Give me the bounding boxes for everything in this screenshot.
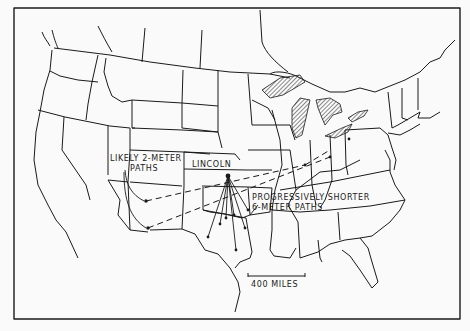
scale-bar — [248, 273, 305, 277]
six-meter-label-line1: PROGRESSIVELY SHORTER — [252, 193, 370, 203]
us-map — [0, 0, 470, 331]
map-figure: LINCOLN LIKELY 2-METER PATHS PROGRESSIVE… — [0, 0, 470, 331]
two-meter-label-line2: PATHS — [130, 164, 158, 174]
great-lakes — [262, 75, 368, 138]
scale-label: 400 MILES — [251, 280, 298, 290]
two-meter-label-line1: LIKELY 2-METER — [110, 154, 182, 164]
city-label-lincoln: LINCOLN — [192, 160, 231, 170]
frame — [14, 8, 460, 319]
northern-border — [54, 48, 290, 78]
six-meter-label-line2: 6-METER PATHS — [252, 203, 323, 213]
